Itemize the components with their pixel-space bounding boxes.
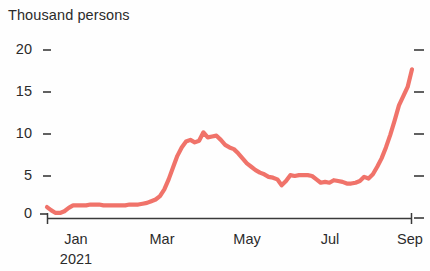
data-line-thousand-persons — [47, 69, 412, 213]
y-axis-label-15: 15 — [4, 83, 32, 99]
x-axis-label-may: May — [222, 231, 272, 247]
y-axis-label-0: 0 — [4, 205, 32, 221]
y-axis-label-5: 5 — [4, 167, 32, 183]
x-axis-label-jan: Jan — [51, 231, 101, 247]
x-axis-label-sep: Sep — [385, 231, 430, 247]
y-axis-label-10: 10 — [4, 125, 32, 141]
x-axis-sublabel-year: 2021 — [51, 251, 101, 267]
x-axis-label-mar: Mar — [137, 231, 187, 247]
chart-container: Thousand persons 20 15 10 5 0 Jan 2021 M… — [0, 0, 430, 271]
y-axis-ticks-left — [40, 50, 51, 214]
y-axis-ticks-right — [414, 50, 424, 218]
y-axis-label-20: 20 — [4, 41, 32, 57]
x-axis-label-jul: Jul — [305, 231, 355, 247]
